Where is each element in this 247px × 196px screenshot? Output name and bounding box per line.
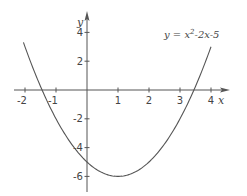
x-tick-label: -2 — [17, 95, 27, 106]
equation-rest: -2x-5 — [195, 29, 220, 40]
x-tick-label: -1 — [48, 95, 58, 106]
x-tick-label: 1 — [115, 95, 121, 106]
equation-label: y = x2-2x-5 — [163, 28, 219, 40]
y-tick-label: -6 — [73, 171, 83, 182]
y-tick-label: -2 — [73, 113, 83, 124]
parabola-curve — [23, 42, 211, 176]
x-tick-label: 2 — [146, 95, 152, 106]
y-axis-label: y — [76, 16, 84, 29]
ticks: -2-1123442-2-4-6 — [17, 27, 214, 182]
y-tick-label: 2 — [77, 56, 83, 67]
equation-prefix: y = — [163, 29, 184, 40]
x-axis-label: x — [218, 94, 225, 107]
x-tick-label: 3 — [177, 95, 183, 106]
function-plot: -2-1123442-2-4-6 x y y = x2-2x-5 — [0, 0, 247, 196]
x-tick-label: 4 — [208, 95, 214, 106]
